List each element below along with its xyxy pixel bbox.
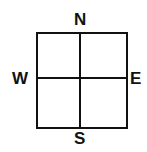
grid-outline [36,32,128,129]
west-label: W [12,70,28,87]
horizontal-divider [36,77,126,79]
south-label: S [74,130,85,147]
north-label: N [74,11,86,28]
east-label: E [130,70,141,87]
vertical-divider [79,32,81,127]
